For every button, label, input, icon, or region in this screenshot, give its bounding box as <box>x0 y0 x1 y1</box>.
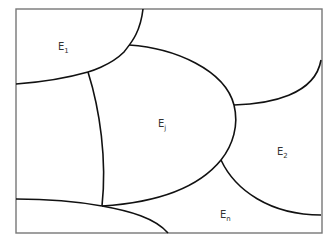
partition-diagram: E1 Ej E2 En <box>0 0 334 244</box>
label-e1: E1 <box>58 41 69 55</box>
label-e2: E2 <box>277 146 288 160</box>
label-ej: Ej <box>158 118 166 132</box>
boundary-e2-en <box>221 160 321 215</box>
boundary-ej-top <box>102 45 236 206</box>
boundary-ej-left <box>88 72 104 206</box>
boundary-e1 <box>16 9 143 84</box>
boundary-en-bottom <box>102 206 168 233</box>
label-en: En <box>220 209 231 223</box>
boundary-en-left <box>16 199 102 206</box>
boundary-upper-right <box>234 60 321 105</box>
